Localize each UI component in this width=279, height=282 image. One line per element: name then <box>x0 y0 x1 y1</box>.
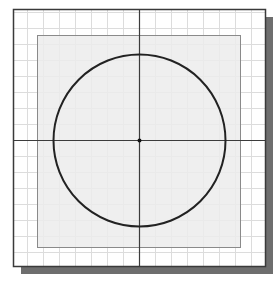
drawing-area <box>0 0 279 282</box>
center-point <box>138 139 142 143</box>
sketch-canvas <box>0 0 279 282</box>
